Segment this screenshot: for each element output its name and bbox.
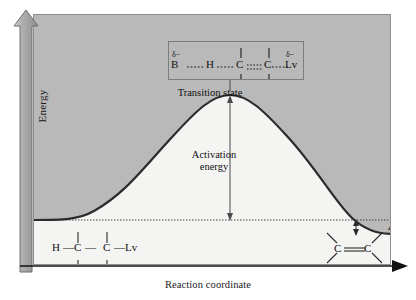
activation-energy-line-2: energy bbox=[168, 161, 260, 173]
reactant-bond-3: — bbox=[114, 241, 125, 253]
reactant-atom-c1: C bbox=[74, 241, 81, 253]
up-arrow-icon bbox=[14, 10, 38, 272]
y-axis-arrow-graphic bbox=[11, 8, 45, 273]
product-atom-c1: C bbox=[334, 242, 341, 254]
reactant-atom-h: H bbox=[52, 241, 60, 253]
x-axis-label: Reaction coordinate bbox=[0, 279, 416, 290]
plot-inner: δ− B H C C δ− Lv H — C — C — Lv C C Tran… bbox=[34, 15, 390, 264]
ts-atom-c2: C bbox=[264, 58, 271, 70]
activation-energy-line-1: Activation bbox=[168, 149, 260, 161]
energy-diagram-figure: δ− B H C C δ− Lv H — C — C — Lv C C Tran… bbox=[0, 0, 416, 300]
reactant-bond-1: — bbox=[63, 241, 74, 253]
reactant-bond-2: — bbox=[85, 241, 96, 253]
reactant-atom-lv: Lv bbox=[125, 241, 137, 253]
product-atom-c2: C bbox=[364, 242, 371, 254]
y-axis-label: Energy bbox=[36, 76, 48, 136]
ts-atom-lv: Lv bbox=[285, 58, 297, 70]
transition-state-label: Transition state bbox=[130, 87, 290, 99]
plot-area: δ− B H C C δ− Lv H — C — C — Lv C C Tran… bbox=[33, 14, 391, 265]
x-axis-arrow-graphic bbox=[20, 258, 410, 274]
transition-state-structure-box: δ− B H C C δ− Lv bbox=[168, 41, 304, 80]
x-axis bbox=[20, 258, 410, 274]
y-axis: Energy bbox=[20, 8, 35, 273]
ts-atom-b: B bbox=[171, 58, 178, 70]
reactant-atom-c2: C bbox=[103, 241, 110, 253]
ts-atom-c1: C bbox=[236, 58, 243, 70]
curve-fill bbox=[34, 95, 390, 264]
right-arrow-icon bbox=[392, 260, 408, 272]
ts-atom-h: H bbox=[206, 58, 214, 70]
delta-h-label: ΔH bbox=[379, 221, 390, 233]
activation-energy-label: Activation energy bbox=[168, 149, 260, 173]
